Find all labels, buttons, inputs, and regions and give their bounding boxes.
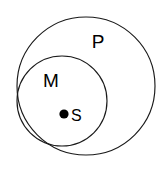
point-label-s: S — [71, 107, 82, 124]
euler-diagram-canvas: P M S — [0, 0, 165, 170]
set-circle-m[interactable] — [17, 56, 107, 146]
set-label-m: M — [43, 70, 59, 91]
point-dot-s[interactable] — [59, 109, 68, 118]
set-label-p: P — [92, 31, 105, 52]
euler-diagram-svg: P M S — [0, 0, 165, 170]
